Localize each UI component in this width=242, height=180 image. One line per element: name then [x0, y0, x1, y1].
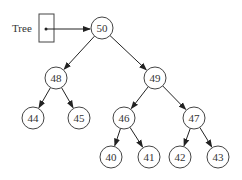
edge-n48-n44 — [39, 88, 51, 108]
tree-node-40: 40 — [100, 146, 122, 168]
node-value: 42 — [175, 151, 186, 163]
node-value: 43 — [213, 151, 225, 163]
node-value: 49 — [150, 72, 162, 84]
tree-node-47: 47 — [183, 107, 205, 129]
node-value: 48 — [51, 72, 63, 84]
node-value: 40 — [106, 151, 118, 163]
tree-node-41: 41 — [138, 146, 160, 168]
node-value: 44 — [28, 112, 40, 124]
tree-node-43: 43 — [207, 146, 229, 168]
edge-n49-n47 — [163, 86, 186, 110]
tree-node-44: 44 — [22, 107, 44, 129]
tree-node-48: 48 — [45, 67, 67, 89]
edge-n50-n48 — [64, 36, 94, 69]
binary-tree-diagram: 5048494445464740414243 — [0, 0, 242, 180]
tree-node-42: 42 — [169, 146, 191, 168]
tree-node-49: 49 — [144, 67, 166, 89]
edge-n48-n45 — [61, 88, 73, 108]
node-value: 45 — [74, 112, 86, 124]
node-value: 47 — [189, 112, 201, 124]
tree-node-46: 46 — [113, 107, 135, 129]
node-value: 41 — [144, 151, 155, 163]
edge-n47-n42 — [184, 128, 190, 145]
edge-n50-n49 — [110, 36, 146, 70]
tree-node-45: 45 — [68, 107, 90, 129]
edge-n46-n41 — [130, 127, 143, 147]
edge-n47-n43 — [200, 127, 212, 146]
node-value: 46 — [119, 112, 131, 124]
edge-n46-n40 — [115, 128, 121, 145]
tree-node-50: 50 — [91, 17, 113, 39]
node-value: 50 — [97, 22, 109, 34]
edge-n49-n46 — [131, 87, 148, 109]
